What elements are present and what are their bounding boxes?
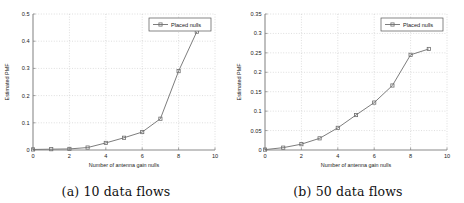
y-tick-label: 0.1 [254,108,262,114]
legend-label-b: Placed nulls [403,22,433,28]
x-tick-label: 10 [212,153,218,159]
y-tick-label: 0.1 [22,120,30,126]
chart-a-canvas: 024681000.10.20.30.40.5Number of antenna… [0,0,232,170]
x-tick-label: 10 [444,153,450,159]
legend-label-a: Placed nulls [171,22,201,28]
x-tick-label: 0 [31,153,34,159]
y-tick-label: 0 [258,147,261,153]
figure-panel-row: 024681000.10.20.30.40.5Number of antenna… [0,0,464,203]
x-tick-label: 2 [68,153,71,159]
x-tick-label: 6 [141,153,144,159]
x-tick-label: 6 [373,153,376,159]
chart-b: 024681000.050.10.150.20.250.30.35Number … [232,0,464,170]
x-tick-label: 0 [263,153,266,159]
y-tick-label: 0.05 [251,128,262,134]
subfigure-a: 024681000.10.20.30.40.5Number of antenna… [0,0,232,203]
y-tick-label: 0.3 [22,65,30,71]
x-tick-label: 4 [336,153,339,159]
x-tick-label: 8 [177,153,180,159]
data-line-placed-nulls [265,49,429,150]
y-tick-label: 0.2 [22,93,30,99]
chart-b-canvas: 024681000.050.10.150.20.250.30.35Number … [232,0,464,170]
x-axis-title: Number of antenna gain nulls [321,162,392,168]
y-tick-label: 0.35 [251,11,262,17]
y-tick-label: 0.5 [22,11,30,17]
subfigure-b-caption: (b) 50 data flows [232,184,464,199]
subfigure-a-caption: (a) 10 data flows [0,184,232,199]
x-axis-title: Number of antenna gain nulls [89,162,160,168]
subfigure-b: 024681000.050.10.150.20.250.30.35Number … [232,0,464,203]
x-tick-label: 4 [104,153,107,159]
y-tick-label: 0.15 [251,89,262,95]
chart-a: 024681000.10.20.30.40.5Number of antenna… [0,0,232,170]
y-tick-label: 0.3 [254,30,262,36]
y-tick-label: 0.25 [251,50,262,56]
y-tick-label: 0.2 [254,69,262,75]
x-tick-label: 8 [409,153,412,159]
y-tick-label: 0.4 [22,38,30,44]
y-tick-label: 0 [26,147,29,153]
y-axis-title: Estimated PMF [4,63,10,101]
y-axis-title: Estimated PMF [236,63,242,101]
data-line-placed-nulls [33,32,197,150]
x-tick-label: 2 [300,153,303,159]
